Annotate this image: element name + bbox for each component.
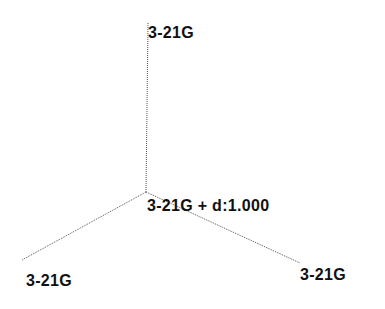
atom-label-bottom-right: 3-21G bbox=[300, 266, 346, 284]
atom-label-center: 3-21G + d:1.000 bbox=[147, 197, 269, 215]
atom-label-top: 3-21G bbox=[148, 24, 194, 42]
bond-bottom-left bbox=[22, 192, 146, 260]
atom-label-bottom-left: 3-21G bbox=[26, 272, 72, 290]
bond-lines bbox=[0, 0, 385, 309]
bond-top bbox=[146, 22, 148, 192]
